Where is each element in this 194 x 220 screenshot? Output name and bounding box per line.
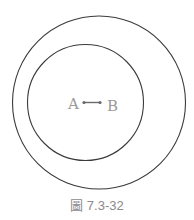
point-a [82, 101, 85, 104]
label-a: A [67, 95, 79, 113]
diagram-canvas: A B [0, 0, 194, 220]
point-b [98, 101, 101, 104]
label-b: B [107, 97, 118, 115]
figure-caption: 圖 7.3-32 [0, 195, 194, 214]
